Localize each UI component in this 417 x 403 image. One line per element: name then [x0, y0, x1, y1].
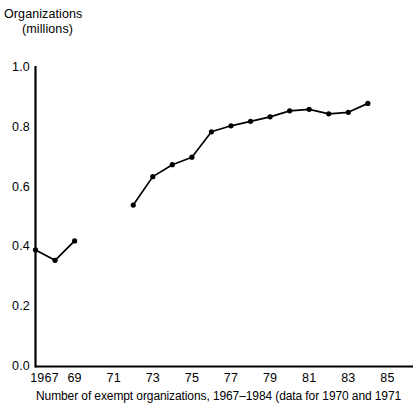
x-tick-label: 75 [172, 372, 212, 385]
x-tick-label: 73 [133, 372, 173, 385]
data-point-marker [150, 174, 155, 179]
data-point-marker [228, 123, 233, 128]
x-tick-label: 85 [367, 372, 407, 385]
series-line-segment-1 [133, 103, 368, 205]
data-point-marker [52, 258, 57, 263]
data-point-marker [72, 238, 77, 243]
data-point-marker [170, 162, 175, 167]
data-series-layer [33, 101, 371, 263]
x-tick-label: 77 [211, 372, 251, 385]
y-tick-label: 1.0 [0, 61, 30, 74]
x-tick-label: 79 [250, 372, 290, 385]
data-point-marker [346, 110, 351, 115]
x-tick-label: 69 [55, 372, 95, 385]
data-point-marker [268, 114, 273, 119]
series-line-segment-0 [36, 241, 75, 260]
data-point-marker [189, 155, 194, 160]
data-point-marker [365, 101, 370, 106]
data-point-marker [326, 111, 331, 116]
data-point-marker [33, 247, 38, 252]
data-point-marker [248, 119, 253, 124]
x-tick-label: 71 [94, 372, 134, 385]
x-tick-label: 81 [289, 372, 329, 385]
x-tick-label: 83 [328, 372, 368, 385]
y-tick-label: 0.8 [0, 121, 30, 134]
y-tick-label: 0.6 [0, 181, 30, 194]
y-tick-label: 0.4 [0, 240, 30, 253]
data-point-marker [209, 129, 214, 134]
data-point-marker [131, 202, 136, 207]
figure-caption: Number of exempt organizations, 1967–198… [36, 390, 417, 403]
y-tick-label: 0.2 [0, 300, 30, 313]
data-point-marker [287, 108, 292, 113]
data-point-marker [307, 107, 312, 112]
